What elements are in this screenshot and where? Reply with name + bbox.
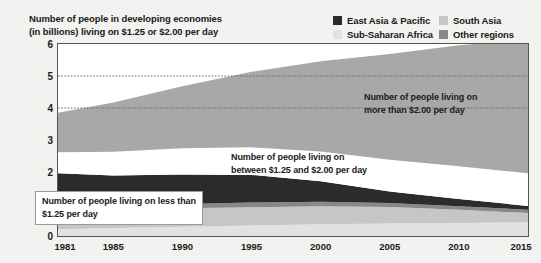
legend-label: South Asia xyxy=(453,15,501,26)
callout-under-125: Number of people living on less than $1.… xyxy=(35,191,203,225)
legend-item-east-asia-pacific: East Asia & Pacific xyxy=(333,15,439,26)
legend-label: Sub-Saharan Africa xyxy=(347,29,433,40)
legend-swatch-icon xyxy=(333,30,342,39)
y-axis-tick-label: 0 xyxy=(3,231,53,242)
x-axis-tick-label: 1985 xyxy=(103,241,124,252)
y-axis-tick-label: 2 xyxy=(3,167,53,178)
x-axis-tick-label: 2005 xyxy=(379,241,400,252)
y-axis-tick-label: 5 xyxy=(3,71,53,82)
x-axis-tick-label: 2010 xyxy=(448,241,469,252)
legend-item-sub-saharan-africa: Sub-Saharan Africa xyxy=(333,29,439,40)
x-axis-tick-label: 2015 xyxy=(510,241,531,252)
legend-swatch-icon xyxy=(333,16,342,25)
legend-swatch-icon xyxy=(439,30,448,39)
y-axis-tick-label: 6 xyxy=(3,39,53,50)
x-axis-tick-label: 1995 xyxy=(241,241,262,252)
legend-swatch-icon xyxy=(439,16,448,25)
legend-label: Other regions xyxy=(453,29,514,40)
callout-over-200: Number of people living on more than $2.… xyxy=(364,91,477,116)
legend-label: East Asia & Pacific xyxy=(347,15,430,26)
legend-item-other-regions: Other regions xyxy=(439,29,539,40)
chart-legend: East Asia & Pacific South Asia Sub-Sahar… xyxy=(333,14,539,41)
y-axis-tick-label: 4 xyxy=(3,103,53,114)
x-axis-tick-label: 1981 xyxy=(54,241,75,252)
chart-title: Number of people in developing economies… xyxy=(29,13,319,38)
legend-item-south-asia: South Asia xyxy=(439,15,539,26)
x-axis-tick-label: 1990 xyxy=(172,241,193,252)
callout-between-125-and-200: Number of people living on between $1.25… xyxy=(231,151,367,176)
y-axis-tick-label: 3 xyxy=(3,135,53,146)
x-axis-tick-label: 2000 xyxy=(310,241,331,252)
chart-figure: Number of people in developing economies… xyxy=(0,0,541,263)
x-axis: 19811985199019952000200520102015 xyxy=(0,241,541,257)
